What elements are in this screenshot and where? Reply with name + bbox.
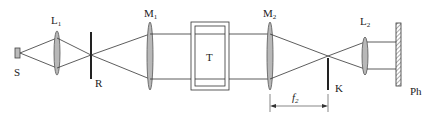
optical-diagram: S L1 R M1 T M2 K L2 Ph f2	[0, 0, 434, 119]
ray	[328, 56, 365, 69]
arrow-right-icon	[322, 104, 328, 108]
lens-l2-label: L2	[360, 15, 371, 29]
knife-edge-label: K	[335, 82, 343, 94]
ray	[270, 34, 328, 56]
screen-ph	[396, 23, 401, 86]
slit-label: R	[95, 77, 103, 89]
ray	[57, 55, 91, 68]
mirror-m2-label: M2	[263, 7, 277, 21]
source-label: S	[14, 66, 20, 78]
ray	[57, 38, 91, 55]
mirror-m2	[267, 22, 273, 90]
screen-label: Ph	[410, 85, 422, 97]
ray	[91, 55, 150, 79]
lens-l1-label: L1	[51, 14, 62, 28]
arrow-left-icon	[270, 104, 276, 108]
focal-length-label: f2	[292, 91, 299, 105]
mirror-m1	[147, 22, 153, 90]
light-source	[15, 48, 20, 58]
mirror-m1-label: M1	[144, 7, 158, 21]
test-section-label: T	[206, 51, 213, 63]
ray	[91, 34, 150, 55]
ray	[328, 42, 365, 56]
ray	[270, 56, 328, 79]
lens-l1	[54, 31, 60, 75]
ray	[20, 53, 57, 68]
ray	[20, 38, 57, 53]
